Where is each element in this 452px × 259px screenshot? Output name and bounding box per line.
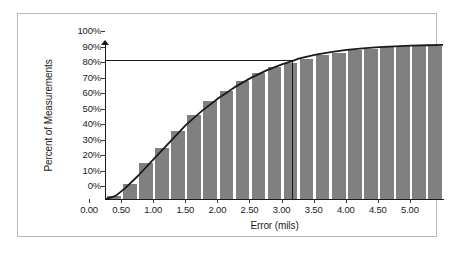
x-axis-tick-label: 3.50 [305,204,323,215]
y-axis-tick-label: 40% [83,119,101,129]
y-axis-tick-label: 100% [78,26,102,36]
y-axis-tick-label: 70% [83,73,101,83]
y-axis-tick [101,171,105,172]
x-axis-tick [121,199,122,203]
y-axis-tick-label: 30% [83,135,101,145]
x-axis-tick-label: 0.50 [112,204,130,215]
x-axis-tick [217,199,218,203]
y-axis-tick-label: 60% [83,88,101,98]
ninety-percent-reference-line [106,60,292,61]
cumulative-curve [106,44,443,199]
x-axis-tick-label: 1.00 [144,204,162,215]
x-axis-tick [282,199,283,203]
error-threshold-reference-line [292,60,293,200]
y-axis-tick [101,78,105,79]
x-axis-tick [185,199,186,203]
x-axis-tick-label: 4.50 [369,204,387,215]
x-axis-tick-label: 2.50 [241,204,259,215]
x-axis-tick-label: 1.50 [176,204,194,215]
x-axis-tick [346,199,347,203]
y-axis-tick-label: 10% [83,166,101,176]
figure-container: Percent of Measurements 0%10%20%30%40%50… [0,0,452,259]
y-axis-tick-labels: 0%10%20%30%40%50%60%70%80%90%100% [45,14,101,259]
x-axis-tick-label: 2.00 [209,204,227,215]
x-axis-tick-label: 0.00 [80,204,98,215]
x-axis-tick [378,199,379,203]
y-axis-tick [101,140,105,141]
x-axis-title: Error (mils) [106,220,443,231]
x-axis-tick-label: 3.00 [273,204,291,215]
x-axis-tick [153,199,154,203]
y-axis-tick [101,62,105,63]
x-axis-tick [410,199,411,203]
x-axis-tick-label: 4.00 [337,204,355,215]
y-axis-tick-label: 90% [83,42,101,52]
y-axis-tick [101,109,105,110]
y-axis-tick [101,124,105,125]
y-axis-tick [101,47,105,48]
y-axis-tick-label: 20% [83,150,101,160]
figure-frame: Percent of Measurements 0%10%20%30%40%50… [17,13,437,237]
plot-area [106,44,443,199]
plot-inner [106,44,443,199]
y-axis-tick [101,155,105,156]
y-axis-tick [101,31,105,32]
x-axis-tick [249,199,250,203]
y-axis-tick-label: 80% [83,57,101,67]
y-axis-tick [101,186,105,187]
x-axis-tick [314,199,315,203]
y-axis-tick [101,93,105,94]
x-axis-tick [89,199,90,203]
y-axis-tick-label: 50% [83,104,101,114]
x-axis-tick-label: 5.00 [401,204,419,215]
y-axis-tick-label: 0% [88,181,101,191]
x-axis-line [105,199,444,200]
